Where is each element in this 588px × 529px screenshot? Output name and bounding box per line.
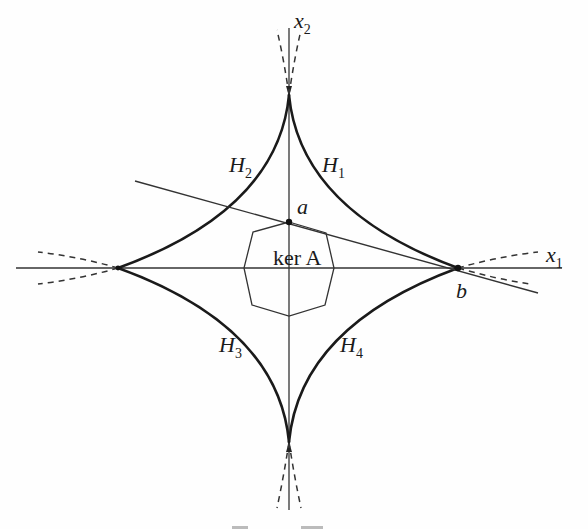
- dash-right-down: [458, 268, 530, 284]
- point-a: [286, 219, 292, 225]
- line-through-a-b: [135, 181, 538, 293]
- dash-right-up: [458, 252, 538, 268]
- curve-H4: [289, 268, 458, 442]
- label-point-b: b: [456, 278, 467, 303]
- label-point-a: a: [297, 194, 308, 219]
- astroid-diagram: x2 x1 H1 H2 H3 H4 a b ker A: [0, 0, 588, 529]
- label-H2: H2: [228, 152, 252, 181]
- dash-top-right: [289, 30, 301, 95]
- label-H1: H1: [321, 152, 345, 181]
- x1-axis-label: x1: [545, 242, 563, 271]
- curve-H1: [289, 95, 458, 268]
- dash-top-left: [277, 30, 289, 95]
- label-H4: H4: [339, 332, 363, 361]
- curve-H2: [118, 95, 289, 268]
- x2-axis-label: x2: [293, 8, 311, 37]
- curve-H3: [118, 268, 289, 442]
- point-b: [455, 265, 461, 271]
- label-ker-A: ker A: [273, 245, 321, 270]
- cusp-left: [116, 266, 121, 271]
- dash-left-up: [38, 252, 118, 268]
- dash-left-down: [38, 268, 118, 284]
- figure-canvas: x2 x1 H1 H2 H3 H4 a b ker A: [0, 0, 588, 529]
